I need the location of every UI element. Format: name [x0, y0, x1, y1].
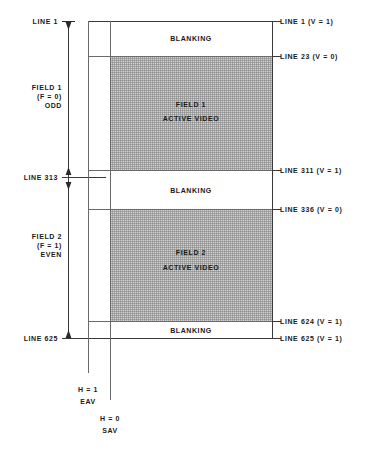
eav-column-line	[88, 21, 89, 373]
label-field-1-block: FIELD 1 (F = 0) ODD	[0, 83, 62, 110]
label-blanking-top: BLANKING	[110, 34, 272, 43]
label-field1-active-subtitle: ACTIVE VIDEO	[110, 114, 272, 123]
video-timing-diagram: LINE 1 LINE 313 LINE 625 FIELD 1 (F = 0)…	[0, 0, 365, 458]
label-line-313: LINE 313	[0, 173, 58, 182]
label-right-line-1: LINE 1 (V = 1)	[280, 17, 333, 26]
label-blanking-mid: BLANKING	[110, 186, 272, 195]
label-right-line-336: LINE 336 (V = 0)	[280, 205, 342, 214]
label-field-2-parity: EVEN	[0, 250, 62, 259]
label-line-1: LINE 1	[0, 17, 58, 26]
label-right-line-624: LINE 624 (V = 1)	[280, 317, 342, 326]
label-right-line-625: LINE 625 (V = 1)	[280, 334, 342, 343]
marker-eav-block: H = 1 EAV	[48, 385, 128, 406]
border-line-311	[88, 170, 272, 171]
label-field2-active-subtitle: ACTIVE VIDEO	[110, 263, 272, 272]
label-blanking-bottom: BLANKING	[110, 326, 272, 335]
border-line-23	[88, 56, 272, 57]
label-field-1-title: FIELD 1	[0, 83, 62, 92]
marker-sav-block: H = 0 SAV	[70, 414, 150, 435]
label-field-1-parity: ODD	[0, 101, 62, 110]
border-line-336	[88, 209, 272, 210]
label-field-2-block: FIELD 2 (F = 1) EVEN	[0, 232, 62, 259]
label-sav-h-value: H = 0	[70, 414, 150, 423]
border-line-624	[88, 321, 272, 322]
right-border-line	[272, 21, 273, 339]
label-right-line-311: LINE 311 (V = 1)	[280, 166, 342, 175]
label-eav-h-value: H = 1	[48, 385, 128, 394]
border-line-1	[88, 21, 272, 22]
label-sav: SAV	[70, 426, 150, 435]
label-right-line-23: LINE 23 (V = 0)	[280, 52, 338, 61]
label-field-2-flag: (F = 1)	[0, 241, 62, 250]
label-line-625: LINE 625	[0, 334, 58, 343]
field-span-spine	[68, 21, 69, 339]
label-field-2-title: FIELD 2	[0, 232, 62, 241]
label-eav: EAV	[48, 397, 128, 406]
label-field1-active-title: FIELD 1	[110, 100, 272, 109]
label-field2-active-title: FIELD 2	[110, 248, 272, 257]
border-line-625	[62, 338, 272, 339]
label-field-1-flag: (F = 0)	[0, 92, 62, 101]
sav-column-line	[110, 21, 111, 400]
